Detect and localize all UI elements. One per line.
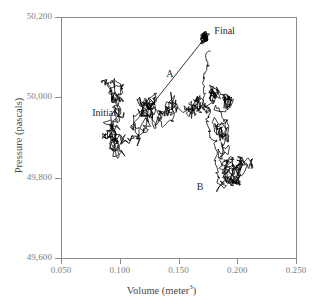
x-axis-title-close: ) (193, 285, 197, 296)
path-b-label: B (197, 181, 204, 192)
x-tick-label: 0.250 (273, 265, 319, 275)
y-tick-label: 49,600 (0, 252, 52, 262)
x-tick-label: 0.150 (156, 265, 202, 275)
pressure-volume-chart: 49,60049,80050,00050,200 0.0500.1000.150… (0, 0, 323, 304)
final-label: Final (214, 25, 235, 36)
random-walk-trace (101, 31, 253, 192)
path-a-line (151, 38, 205, 106)
y-tick-label: 49,800 (0, 172, 52, 182)
axis-ticks (55, 18, 297, 265)
x-axis-title: Volume (meter3) (0, 283, 323, 296)
y-tick-label: 50,000 (0, 91, 52, 101)
x-tick-label: 0.100 (97, 265, 143, 275)
x-tick-label: 0.050 (38, 265, 84, 275)
path-a-label: A (166, 68, 173, 79)
plot-frame (62, 18, 297, 259)
initial-label: Initial (92, 107, 116, 118)
x-tick-label: 0.200 (214, 265, 260, 275)
x-axis-title-base: Volume (meter (127, 285, 190, 296)
y-axis-title: Pressure (pascals) (13, 56, 24, 216)
y-tick-label: 50,200 (0, 11, 52, 21)
